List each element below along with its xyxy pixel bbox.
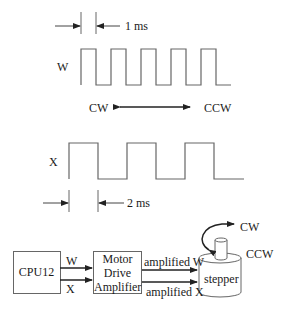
x-signal-label: X (49, 156, 58, 168)
amplified-w-label: amplified W (144, 256, 204, 268)
amplified-x-label: amplified X (146, 286, 204, 298)
w-signal-label: W (57, 61, 68, 73)
x-input-label: X (66, 283, 75, 295)
cpu12-label: CPU12 (16, 266, 57, 278)
direction-cw-label: CW (89, 102, 108, 114)
amplifier-label: Motor Drive Amplifier (94, 252, 141, 294)
w-period-dimension (55, 12, 120, 34)
rotation-cw-label: CW (240, 221, 259, 233)
w-period-label: 1 ms (125, 20, 148, 32)
x-period-dimension (43, 190, 124, 212)
x-waveform (69, 143, 244, 179)
x-period-label: 2 ms (127, 197, 150, 209)
w-waveform (81, 49, 231, 85)
stepper-label: stepper (204, 273, 239, 285)
w-input-label: W (66, 255, 77, 267)
rotation-ccw-label: CCW (246, 248, 273, 260)
direction-ccw-label: CCW (204, 102, 231, 114)
